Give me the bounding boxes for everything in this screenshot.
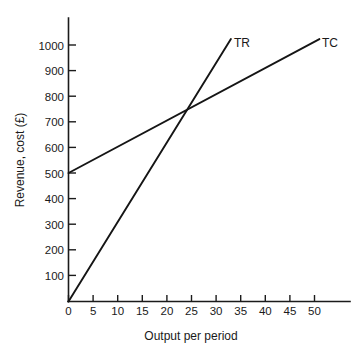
y-tick-label-200: 200 (45, 244, 64, 256)
y-axis-title: Revenue, cost (£) (13, 113, 27, 208)
series-line-tc (69, 39, 320, 173)
plot-axes (68, 18, 350, 302)
x-tick-label-50: 50 (308, 305, 321, 317)
y-tick-label-600: 600 (45, 142, 64, 154)
y-tick-label-900: 900 (45, 65, 64, 77)
y-tick-label-500: 500 (45, 168, 64, 180)
y-tick-label-100: 100 (45, 270, 64, 282)
y-tick-label-700: 700 (45, 116, 64, 128)
x-tick-label-10: 10 (111, 305, 124, 317)
x-tick-label-25: 25 (185, 305, 198, 317)
series-label-tc: TC (322, 36, 338, 50)
data-series (69, 39, 320, 301)
x-tick-label-5: 5 (90, 305, 96, 317)
x-tick-label-30: 30 (210, 305, 223, 317)
y-tick-label-800: 800 (45, 91, 64, 103)
y-tick-label-1000: 1000 (38, 40, 64, 52)
x-axis-ticks (69, 295, 315, 302)
x-tick-label-35: 35 (234, 305, 247, 317)
x-tick-label-15: 15 (136, 305, 149, 317)
y-tick-label-300: 300 (45, 219, 64, 231)
y-tick-label-400: 400 (45, 193, 64, 205)
y-axis-tick-labels: 1000 900 800 700 600 500 400 300 200 100 (38, 40, 64, 282)
series-labels: TR TC (234, 36, 338, 50)
chart-figure: 1000 900 800 700 600 500 400 300 200 100 (0, 0, 359, 355)
x-tick-label-0: 0 (65, 305, 71, 317)
y-axis-ticks (69, 45, 77, 275)
x-tick-label-45: 45 (284, 305, 297, 317)
series-line-tr (69, 39, 231, 301)
x-tick-label-40: 40 (259, 305, 272, 317)
chart-canvas: 1000 900 800 700 600 500 400 300 200 100 (0, 0, 359, 355)
series-label-tr: TR (234, 36, 250, 50)
x-tick-label-20: 20 (161, 305, 174, 317)
x-axis-title: Output per period (144, 329, 237, 343)
x-axis-tick-labels: 0 5 10 15 20 25 30 35 40 45 50 (65, 305, 321, 317)
